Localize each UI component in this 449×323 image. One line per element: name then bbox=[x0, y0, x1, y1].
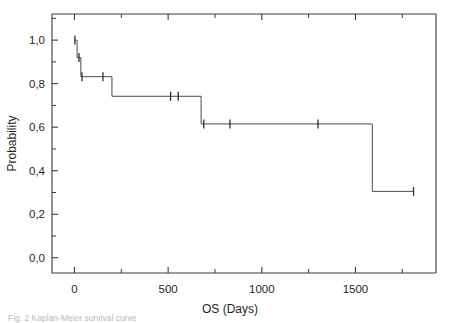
plot-frame bbox=[52, 14, 436, 273]
x-tick-label: 500 bbox=[159, 283, 178, 295]
axis-labels-group: 0500100015000,00,20,40,60,81,0OS (Days)P… bbox=[5, 34, 368, 316]
y-tick-label: 0,0 bbox=[29, 252, 45, 264]
x-axis-title: OS (Days) bbox=[202, 302, 258, 316]
figure-container: 0500100015000,00,20,40,60,81,0OS (Days)P… bbox=[0, 0, 449, 323]
survival-step-line bbox=[74, 40, 413, 191]
y-tick-label: 1,0 bbox=[29, 34, 45, 46]
y-tick-label: 0,6 bbox=[29, 121, 45, 133]
y-tick-label: 0,4 bbox=[29, 165, 46, 177]
km-survival-chart: 0500100015000,00,20,40,60,81,0OS (Days)P… bbox=[0, 0, 449, 323]
axes-group bbox=[52, 14, 436, 273]
y-axis-title: Probability bbox=[5, 115, 19, 171]
y-tick-label: 0,2 bbox=[29, 208, 45, 220]
survival-curve-group bbox=[74, 36, 413, 196]
x-tick-label: 1500 bbox=[343, 283, 369, 295]
x-tick-label: 1000 bbox=[249, 283, 275, 295]
figure-caption: Fig. 2 Kaplan-Meier survival curve bbox=[8, 313, 137, 323]
y-tick-label: 0,8 bbox=[29, 78, 45, 90]
x-tick-label: 0 bbox=[71, 283, 77, 295]
